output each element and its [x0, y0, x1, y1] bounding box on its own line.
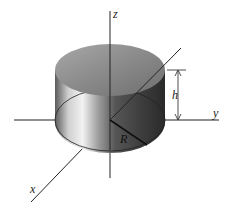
- height-label: h: [172, 88, 178, 102]
- y-axis-label: y: [212, 106, 219, 120]
- radius-label: R: [119, 132, 128, 146]
- z-axis-label: z: [112, 7, 118, 21]
- cylinder-diagram: z y x h R: [0, 0, 231, 211]
- x-axis-label: x: [29, 182, 36, 196]
